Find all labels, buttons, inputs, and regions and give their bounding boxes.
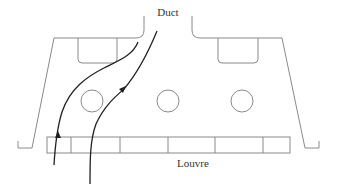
louvre <box>47 137 290 153</box>
louvre-label: Louvre <box>177 157 209 169</box>
housing-right-wall <box>192 16 319 148</box>
airflow-diagram: Duct Louvre <box>0 0 339 190</box>
housing-left-wall <box>18 16 144 148</box>
circle-middle <box>157 90 179 112</box>
airflow-arrow-right <box>90 31 157 184</box>
arrowhead-icon <box>55 131 61 138</box>
circle-left <box>81 90 103 112</box>
circle-right <box>231 90 253 112</box>
duct-label: Duct <box>157 6 178 18</box>
baffle-left <box>78 38 117 63</box>
airflow-arrow-left <box>54 42 138 165</box>
baffle-right <box>218 38 258 63</box>
